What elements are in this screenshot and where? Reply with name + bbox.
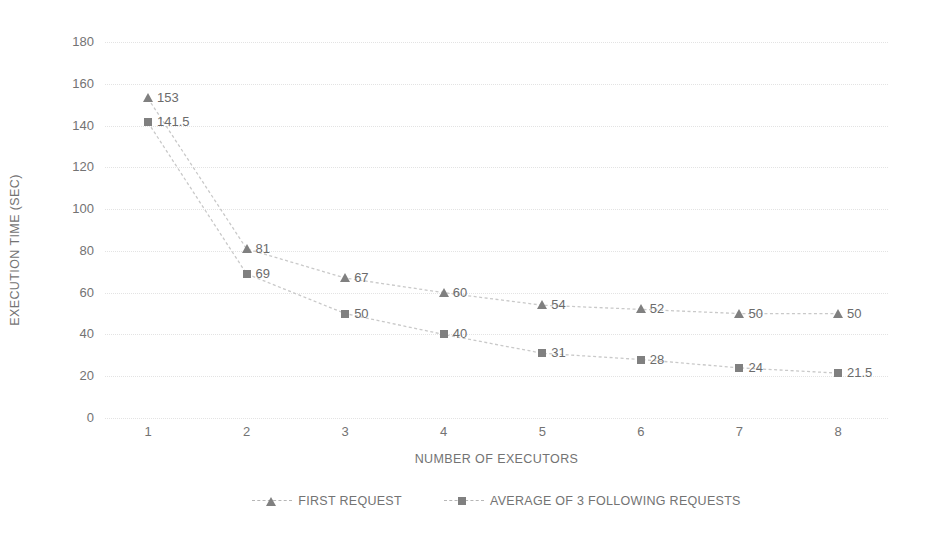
x-tick-label: 7: [719, 424, 759, 439]
data-point-marker: [538, 349, 546, 357]
data-point-label: 50: [847, 307, 861, 321]
data-point-label: 31: [551, 346, 565, 360]
data-point-label: 54: [551, 298, 565, 312]
gridline: [105, 376, 888, 377]
y-tick-label: 180: [48, 35, 94, 49]
data-point-label: 81: [256, 242, 270, 256]
triangle-marker-icon: [266, 497, 276, 506]
chart-container: EXECUTION TIME (SEC) 0204060801001201401…: [0, 0, 928, 540]
x-tick-label: 8: [818, 424, 858, 439]
y-tick-label: 0: [48, 411, 94, 425]
gridline: [105, 251, 888, 252]
data-point-label: 153: [157, 91, 179, 105]
data-point-marker: [243, 270, 251, 278]
data-point-marker: [340, 273, 350, 282]
gridline: [105, 418, 888, 419]
data-point-marker: [637, 356, 645, 364]
legend-label: AVERAGE OF 3 FOLLOWING REQUESTS: [490, 494, 741, 508]
legend-swatch: [252, 494, 292, 508]
gridline: [105, 84, 888, 85]
data-point-label: 24: [748, 361, 762, 375]
chart-legend: FIRST REQUESTAVERAGE OF 3 FOLLOWING REQU…: [105, 494, 888, 508]
series-line-1: [148, 98, 838, 313]
legend-swatch: [444, 494, 484, 508]
data-point-marker: [143, 93, 153, 102]
y-tick-label: 160: [48, 77, 94, 91]
data-point-marker: [735, 364, 743, 372]
data-point-label: 60: [453, 286, 467, 300]
data-point-marker: [834, 369, 842, 377]
data-point-marker: [537, 300, 547, 309]
y-tick-label: 40: [48, 327, 94, 341]
x-tick-label: 5: [522, 424, 562, 439]
x-tick-label: 3: [325, 424, 365, 439]
gridline: [105, 209, 888, 210]
x-tick-label: 4: [424, 424, 464, 439]
data-point-label: 21.5: [847, 366, 872, 380]
y-axis-title: EXECUTION TIME (SEC): [8, 60, 28, 440]
x-tick-label: 6: [621, 424, 661, 439]
data-point-label: 52: [650, 302, 664, 316]
square-marker-icon: [458, 497, 466, 505]
data-point-marker: [144, 118, 152, 126]
data-point-label: 28: [650, 353, 664, 367]
x-tick-label: 2: [227, 424, 267, 439]
gridline: [105, 334, 888, 335]
y-tick-label: 140: [48, 119, 94, 133]
data-point-marker: [440, 330, 448, 338]
marker-glyph: [458, 497, 466, 505]
data-point-marker: [833, 309, 843, 318]
data-point-marker: [636, 304, 646, 313]
gridline: [105, 293, 888, 294]
y-tick-label: 20: [48, 369, 94, 383]
data-point-marker: [341, 310, 349, 318]
x-tick-label: 1: [128, 424, 168, 439]
data-point-label: 69: [256, 267, 270, 281]
y-tick-label: 60: [48, 286, 94, 300]
data-point-marker: [439, 288, 449, 297]
data-point-label: 50: [748, 307, 762, 321]
x-axis-title: NUMBER OF EXECUTORS: [105, 452, 888, 466]
y-tick-label: 120: [48, 160, 94, 174]
gridline: [105, 42, 888, 43]
data-point-label: 50: [354, 307, 368, 321]
data-point-label: 67: [354, 271, 368, 285]
y-tick-label: 100: [48, 202, 94, 216]
data-point-marker: [242, 244, 252, 253]
y-tick-label: 80: [48, 244, 94, 258]
marker-glyph: [266, 497, 276, 506]
gridline: [105, 167, 888, 168]
gridline: [105, 126, 888, 127]
data-point-marker: [734, 309, 744, 318]
legend-label: FIRST REQUEST: [298, 494, 402, 508]
data-point-label: 141.5: [157, 115, 190, 129]
legend-item-1[interactable]: FIRST REQUEST: [252, 494, 402, 508]
data-point-label: 40: [453, 327, 467, 341]
legend-item-2[interactable]: AVERAGE OF 3 FOLLOWING REQUESTS: [444, 494, 741, 508]
